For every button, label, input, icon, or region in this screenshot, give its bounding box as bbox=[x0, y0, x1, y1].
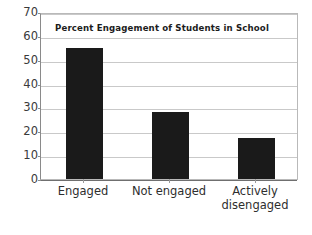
y-tick-label: 40 bbox=[4, 79, 38, 91]
x-axis-label: Activelydisengaged bbox=[212, 184, 298, 212]
y-tick-label: 70 bbox=[4, 7, 38, 19]
chart-title: Percent Engagement of Students in School bbox=[55, 23, 269, 33]
y-tick-label: 60 bbox=[4, 31, 38, 43]
x-axis-label-line: Actively bbox=[212, 184, 298, 198]
bar bbox=[66, 48, 103, 179]
bar-chart: 706050403020100 Percent Engagement of St… bbox=[0, 0, 312, 235]
x-tick-mark bbox=[255, 179, 256, 183]
y-tick-label: 10 bbox=[4, 150, 38, 162]
x-axis-label-line: disengaged bbox=[212, 198, 298, 212]
plot-area: Percent Engagement of Students in School bbox=[40, 13, 298, 180]
x-axis-label-line: Engaged bbox=[40, 184, 126, 198]
bar bbox=[152, 112, 189, 179]
y-axis: 706050403020100 bbox=[0, 0, 38, 193]
y-tick-label: 50 bbox=[4, 55, 38, 67]
gridline bbox=[41, 14, 297, 15]
x-tick-mark bbox=[83, 179, 84, 183]
x-axis-label-line: Not engaged bbox=[126, 184, 212, 198]
x-axis-label: Engaged bbox=[40, 184, 126, 198]
y-tick-label: 0 bbox=[4, 174, 38, 186]
y-tick-label: 30 bbox=[4, 102, 38, 114]
x-axis-labels: EngagedNot engagedActivelydisengaged bbox=[40, 184, 298, 230]
x-tick-mark bbox=[169, 179, 170, 183]
y-tick-label: 20 bbox=[4, 126, 38, 138]
gridline bbox=[41, 38, 297, 39]
x-axis-label: Not engaged bbox=[126, 184, 212, 198]
bar bbox=[238, 138, 275, 179]
